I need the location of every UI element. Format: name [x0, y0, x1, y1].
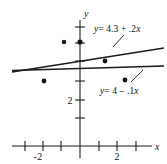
plot-canvas: x y -2 2 2	[0, 0, 167, 164]
equation-label-line-1: y= 4.3 + .2x	[94, 24, 141, 34]
data-point	[103, 59, 108, 64]
x-axis-label: x	[154, 141, 160, 152]
data-point	[123, 78, 128, 83]
y-axis-label: y	[83, 8, 89, 19]
equation-label-line-2: y= 4 – .1x	[100, 86, 139, 96]
leader-line-2	[131, 70, 143, 82]
equation-1-var: x	[136, 24, 140, 34]
equation-2-var: x	[134, 86, 138, 96]
equation-1-body: = 4.3 + .2	[98, 24, 136, 34]
data-point	[77, 39, 82, 44]
leader-line-1	[113, 35, 124, 47]
x-tick-label-neg2: -2	[34, 151, 42, 162]
x-tick-label-pos2: 2	[115, 151, 120, 162]
data-point	[62, 40, 67, 45]
y-tick-label-2: 2	[68, 95, 73, 106]
scatter-plot-figure: x y -2 2 2 y= 4.3 + .2x y= 4 – .1x	[0, 0, 167, 164]
equation-2-body: = 4 – .1	[104, 86, 134, 96]
data-point	[42, 79, 47, 84]
